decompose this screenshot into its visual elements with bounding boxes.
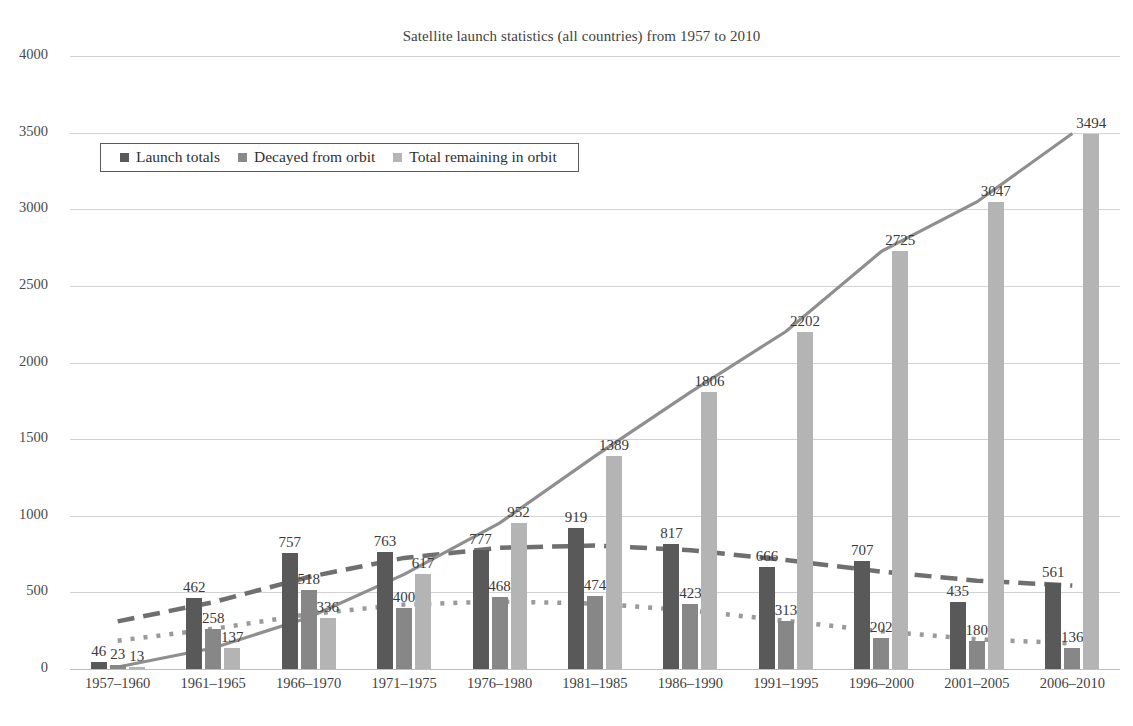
bar-2 [511, 523, 527, 669]
y-axis-tick-label: 2000 [0, 353, 48, 370]
bar-group: 8174231806 [663, 56, 717, 669]
x-axis-tick-label: 1971–1975 [356, 675, 451, 692]
bar-2 [988, 202, 1004, 669]
bar-2 [129, 667, 145, 669]
bar-0 [663, 544, 679, 669]
bar-0 [473, 550, 489, 669]
bar-2 [224, 648, 240, 669]
bar-value-label: 617 [393, 555, 453, 572]
bar-value-label: 817 [641, 525, 701, 542]
bar-2 [320, 618, 336, 669]
x-axis-tick-label: 1957–1960 [70, 675, 165, 692]
bar-value-label: 561 [1023, 564, 1083, 581]
y-axis-tick-label: 3500 [0, 123, 48, 140]
chart-legend: Launch totalsDecayed from orbitTotal rem… [100, 143, 579, 172]
bar-value-label: 952 [489, 504, 549, 521]
bar-2 [606, 456, 622, 669]
x-axis-tick-label: 1966–1970 [261, 675, 356, 692]
y-axis-tick-label: 0 [0, 659, 48, 676]
y-axis-tick-label: 3000 [0, 199, 48, 216]
bar-value-label: 258 [183, 610, 243, 627]
x-axis-tick-label: 1996–2000 [834, 675, 929, 692]
bar-value-label: 518 [279, 571, 339, 588]
bar-0 [568, 528, 584, 669]
x-axis-tick-label: 1976–1980 [452, 675, 547, 692]
bar-value-label: 666 [737, 548, 797, 565]
bar-1 [682, 604, 698, 669]
bar-value-label: 1389 [584, 437, 644, 454]
bar-1 [778, 621, 794, 669]
bar-value-label: 919 [546, 509, 606, 526]
bar-value-label: 707 [832, 542, 892, 559]
bar-1 [1064, 648, 1080, 669]
bar-value-label: 13 [107, 648, 167, 665]
legend-item[interactable]: Total remaining in orbit [384, 148, 565, 166]
y-axis-tick-label: 1000 [0, 506, 48, 523]
legend-swatch-icon [238, 153, 247, 162]
legend-label: Launch totals [136, 148, 220, 166]
bar-1 [873, 638, 889, 669]
bar-group: 6663132202 [759, 56, 813, 669]
bar-1 [110, 665, 126, 669]
bar-2 [701, 392, 717, 669]
bar-1 [492, 597, 508, 669]
x-axis-tick-label: 1981–1985 [547, 675, 642, 692]
x-axis-tick-label: 1986–1990 [643, 675, 738, 692]
bar-value-label: 435 [928, 583, 988, 600]
bar-2 [1083, 134, 1099, 669]
bar-1 [587, 596, 603, 669]
bar-0 [1045, 583, 1061, 669]
x-axis-tick-label: 2006–2010 [1025, 675, 1120, 692]
bar-value-label: 757 [260, 534, 320, 551]
bar-value-label: 763 [355, 533, 415, 550]
bar-1 [396, 608, 412, 669]
legend-swatch-icon [120, 153, 129, 162]
bar-2 [415, 574, 431, 669]
bar-value-label: 137 [202, 629, 262, 646]
bar-value-label: 3047 [966, 183, 1026, 200]
chart-title: Satellite launch statistics (all countri… [0, 28, 1133, 45]
x-axis-tick-label: 1961–1965 [165, 675, 260, 692]
satellite-launch-chart: Satellite launch statistics (all countri… [0, 0, 1133, 726]
legend-label: Total remaining in orbit [409, 148, 556, 166]
bar-value-label: 336 [298, 599, 358, 616]
bar-0 [377, 552, 393, 669]
bar-value-label: 1806 [679, 373, 739, 390]
legend-swatch-icon [393, 153, 402, 162]
y-axis-tick-label: 500 [0, 582, 48, 599]
x-axis-tick-label: 2001–2005 [929, 675, 1024, 692]
bar-0 [854, 561, 870, 669]
bar-value-label: 777 [451, 531, 511, 548]
bar-value-label: 2725 [870, 232, 930, 249]
gridline [70, 669, 1120, 670]
bar-group: 5611363494 [1045, 56, 1099, 669]
legend-label: Decayed from orbit [254, 148, 375, 166]
bar-2 [892, 251, 908, 669]
bar-1 [969, 641, 985, 669]
y-axis-tick-label: 4000 [0, 46, 48, 63]
bar-0 [186, 598, 202, 669]
bar-value-label: 462 [164, 579, 224, 596]
bar-group: 7072022725 [854, 56, 908, 669]
y-axis-tick-label: 2500 [0, 276, 48, 293]
legend-item[interactable]: Launch totals [111, 148, 229, 166]
bar-value-label: 2202 [775, 313, 835, 330]
x-axis-tick-label: 1991–1995 [738, 675, 833, 692]
y-axis-tick-label: 1500 [0, 429, 48, 446]
bar-value-label: 3494 [1061, 115, 1121, 132]
bar-2 [797, 332, 813, 669]
bar-group: 4351803047 [950, 56, 1004, 669]
legend-item[interactable]: Decayed from orbit [229, 148, 384, 166]
